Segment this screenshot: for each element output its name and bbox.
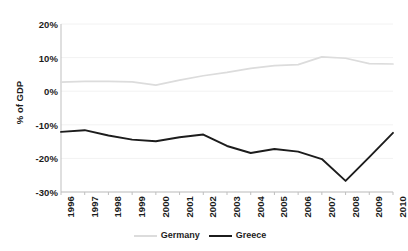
legend-label-greece: Greece (236, 231, 267, 240)
legend-label-germany: Germany (161, 231, 200, 240)
legend-item-greece[interactable]: Greece (209, 231, 267, 240)
x-axis-tick-label: 1997 (89, 196, 100, 218)
x-axis-tick-label: 1996 (65, 196, 76, 218)
x-axis-tick-label: 2009 (373, 196, 384, 218)
x-axis-tick-label: 2006 (302, 196, 313, 218)
x-axis-tick-label: 2000 (160, 196, 171, 218)
x-axis-tick-label: 2008 (350, 196, 361, 218)
legend-swatch-germany-icon (134, 235, 157, 237)
x-axis-tick-label: 1998 (112, 196, 123, 218)
legend-swatch-greece-icon (209, 235, 232, 237)
x-axis-tick-label: 2004 (255, 196, 266, 218)
x-axis-tick-label: 2001 (184, 196, 195, 218)
x-axis-tick-label: 1999 (136, 196, 147, 218)
x-axis-tick-label: 2010 (397, 196, 408, 218)
x-axis-tick-label: 2005 (278, 196, 289, 218)
x-axis-tick-label: 2003 (231, 196, 242, 218)
x-axis-tick-label: 2007 (326, 196, 337, 218)
chart-legend: Germany Greece (0, 231, 400, 240)
x-axis-tick-label: 2002 (207, 196, 218, 218)
legend-item-germany[interactable]: Germany (134, 231, 200, 240)
